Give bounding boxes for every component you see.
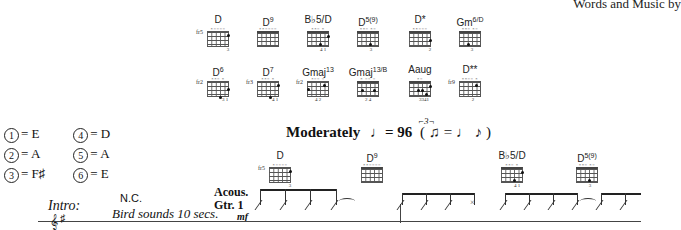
- string-note: F♯: [32, 166, 46, 181]
- fingering: 4 2: [296, 97, 340, 103]
- chord-name: D**: [462, 64, 477, 75]
- chord-diagram: D** ××○○ × fr9 2: [448, 64, 492, 103]
- rhythm-slash: [499, 200, 507, 210]
- triplet-number: 3: [424, 116, 429, 126]
- fretboard-grid: [207, 31, 229, 47]
- chord-sup: 9: [270, 16, 274, 23]
- chord-diagram: D6 ××○ × fr2 3 1: [196, 64, 240, 103]
- chord-sup: 9: [374, 152, 378, 159]
- tuning-legend: 1= E 4= D 2= A 5= A 3= F♯ 6= E: [4, 124, 110, 184]
- treble-clef-icon: 𝄞: [50, 214, 58, 230]
- fretboard-grid: [409, 31, 431, 47]
- fingering: 3: [346, 47, 390, 53]
- staff-chord: D ×○○○○ fr5 3: [258, 150, 302, 189]
- fretboard-grid: [269, 167, 291, 183]
- beam: [601, 193, 641, 195]
- fretboard-grid: [257, 81, 279, 97]
- string-number: 5: [73, 148, 88, 163]
- tuning-row: 1= E 4= D: [4, 124, 110, 144]
- tempo-bpm: = 96: [385, 124, 412, 140]
- fretboard-grid: [357, 31, 379, 47]
- fretboard-grid: [307, 31, 329, 47]
- tempo-marking: Moderately ♩= 96 ( ♫ = ♩ ♪ ): [286, 124, 491, 141]
- fingering: 2 4: [346, 97, 390, 103]
- chord-diagram: Aaug ×○ 3341: [398, 64, 442, 103]
- string-number: 2: [4, 148, 19, 163]
- string-note: A: [31, 146, 40, 161]
- chord-name: D: [258, 150, 302, 162]
- string-note: E: [101, 166, 109, 181]
- muted-note-x: ×: [470, 198, 475, 207]
- staff-line: [38, 221, 641, 222]
- chord-name: B♭5/D: [490, 150, 534, 162]
- fretboard-grid: [361, 167, 383, 183]
- fingering: 4 1: [296, 47, 340, 53]
- chord-sup: 13: [326, 66, 334, 73]
- rhythm-slash: [304, 200, 312, 210]
- chord-diagram: Gm6/D ××○ ×○ 3: [448, 14, 492, 53]
- fretboard-grid: [459, 81, 481, 97]
- swing-notation: ( ♫ = ♩ ♪ ): [420, 124, 491, 140]
- credit-text: Words and Music by: [573, 0, 681, 12]
- chord-name: D*: [414, 14, 425, 25]
- chord-sup: 7: [270, 66, 274, 73]
- chord-diagram: D ×○○○○ fr5 3: [196, 14, 240, 53]
- fretboard-grid: [357, 81, 379, 97]
- fingering: 4 1: [490, 183, 534, 189]
- fret-label: fr5: [258, 165, 265, 171]
- fretboard-grid: [257, 31, 279, 47]
- fingering: 4 1: [246, 97, 290, 103]
- chord-sup: 6: [220, 66, 224, 73]
- string-note: D: [101, 126, 110, 141]
- chord-sup: 13/B: [373, 66, 387, 73]
- direction-text: Bird sounds 10 secs.: [112, 206, 218, 222]
- rhythm-slash: [595, 200, 603, 210]
- rhythm-slash: [420, 200, 428, 210]
- triplet-bracket: ⌐3¬: [418, 116, 435, 126]
- key-signature-sharp-icon: ♯: [60, 212, 66, 224]
- fingering: 3: [196, 47, 240, 53]
- rhythm-slash: [523, 200, 531, 210]
- beam: [402, 193, 475, 195]
- chord-sup: 5(9): [584, 152, 596, 159]
- fretboard-grid: [501, 167, 523, 183]
- fingering: [246, 47, 290, 53]
- fretboard-grid: [207, 81, 229, 97]
- fret-label: fr2: [196, 79, 203, 85]
- fretboard-grid: [459, 31, 481, 47]
- tuning-row: 3= F♯ 6= E: [4, 164, 110, 184]
- fretboard-grid: [307, 81, 329, 97]
- fingering: 3341: [398, 97, 442, 103]
- string-number: 3: [4, 168, 19, 183]
- fret-label: fr2: [296, 79, 303, 85]
- chord-diagram: D* ××○○○ 2: [398, 14, 442, 53]
- no-chord-label: N.C.: [120, 192, 142, 204]
- fingering: 2: [398, 47, 442, 53]
- fretboard-grid: [409, 81, 431, 97]
- chord-diagram: D5(9) ××○ ×○ 3: [346, 14, 390, 53]
- rhythm-slash: [279, 200, 287, 210]
- chord-diagram: D7 ××○ × fr3 4 1: [246, 64, 290, 103]
- beam: [260, 189, 337, 191]
- staff-chord: D9 ××○○○○: [350, 150, 394, 183]
- rhythm-slash: [444, 200, 452, 210]
- string-number: 4: [73, 128, 88, 143]
- chord-diagram: Gmaj13/B × ○○ ○ 2 4: [346, 64, 390, 103]
- rhythm-slash: [547, 200, 555, 210]
- fret-label: fr9: [448, 79, 455, 85]
- string-note: A: [100, 146, 109, 161]
- fingering: 2: [448, 97, 492, 103]
- staff-chord: D5(9) ××○ ×○ 3: [565, 150, 609, 189]
- fingering: 3: [448, 47, 492, 53]
- quarter-note-icon: ♩: [370, 124, 385, 140]
- chord-name: B♭5/D: [304, 14, 331, 25]
- chord-name: Aaug: [408, 64, 431, 75]
- rhythm-slash: [330, 200, 338, 210]
- rhythm-slash: [619, 200, 627, 210]
- rhythm-slash: [254, 200, 262, 210]
- string-number: 1: [4, 128, 19, 143]
- chord-diagram: D9 ××○○○○: [246, 14, 290, 53]
- string-note: E: [32, 126, 40, 141]
- beam: [505, 193, 578, 195]
- chord-sup: 6/D: [473, 16, 484, 23]
